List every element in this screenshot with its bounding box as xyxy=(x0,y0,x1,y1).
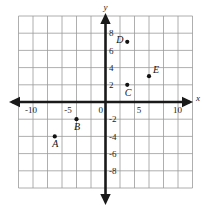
x-tick-label: 10 xyxy=(173,105,183,115)
y-tick-label: 4 xyxy=(109,63,114,73)
data-point-label: C xyxy=(125,87,132,98)
y-tick-label: -2 xyxy=(109,114,117,124)
x-tick-label: 0 xyxy=(99,105,104,115)
y-axis-arrow-down xyxy=(100,194,110,205)
data-point-label: A xyxy=(51,138,59,149)
x-axis-arrow-left xyxy=(9,97,20,107)
data-point-dot xyxy=(147,74,151,78)
y-tick-label: 8 xyxy=(109,28,114,38)
x-tick-label: 5 xyxy=(137,105,142,115)
coordinate-plane-figure: -10-505108642-2-4-6-8 xy ABCDE xyxy=(0,0,204,211)
y-tick-label: -6 xyxy=(109,149,117,159)
y-axis-label: y xyxy=(103,2,108,12)
y-tick-label: -8 xyxy=(109,166,117,176)
data-point-dot xyxy=(125,40,129,44)
x-tick-label: -5 xyxy=(64,105,72,115)
x-tick-label: -10 xyxy=(25,105,37,115)
axis-names: xy xyxy=(103,2,201,103)
x-axis-label: x xyxy=(195,93,200,103)
data-point-label: B xyxy=(74,121,80,132)
y-axis-arrow-up xyxy=(100,13,110,24)
y-tick-label: -4 xyxy=(109,132,117,142)
x-axis-arrow-right xyxy=(182,97,193,107)
data-point-label: D xyxy=(115,34,124,45)
data-point-label: E xyxy=(152,64,159,75)
y-tick-label: 2 xyxy=(109,80,114,90)
coordinate-plane-screenshot: -10-505108642-2-4-6-8 xy ABCDE xyxy=(0,0,204,211)
y-tick-label: 6 xyxy=(109,46,114,56)
